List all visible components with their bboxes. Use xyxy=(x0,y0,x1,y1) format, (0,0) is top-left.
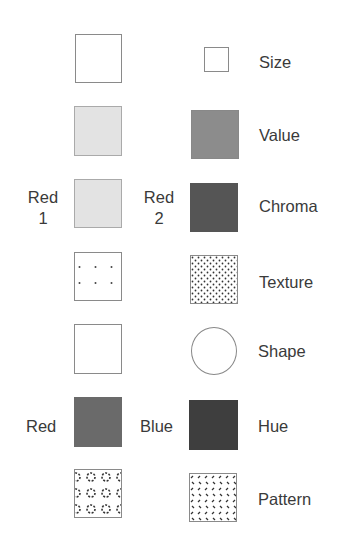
ring-pattern-icon xyxy=(75,470,121,517)
size-label: Size xyxy=(259,53,291,72)
chroma-right-caption-line1: Red xyxy=(137,187,181,208)
hue-blue-square xyxy=(189,400,238,450)
chroma-left-caption-line1: Red xyxy=(22,187,64,208)
chroma-right-caption-line2: 2 xyxy=(137,208,181,229)
shape-circle xyxy=(191,327,237,375)
hue-left-caption: Red xyxy=(26,417,56,436)
size-large-square xyxy=(75,34,122,83)
value-dark-square xyxy=(191,110,239,159)
pattern-circles-square xyxy=(74,469,122,518)
dense-dots-icon xyxy=(191,256,237,303)
hue-right-caption: Blue xyxy=(140,417,173,436)
chroma-left-caption: Red 1 xyxy=(22,187,64,229)
pattern-label: Pattern xyxy=(258,490,311,509)
chroma-left-caption-line2: 1 xyxy=(22,208,64,229)
texture-sparse-square xyxy=(74,252,122,301)
texture-label: Texture xyxy=(259,273,313,292)
texture-dense-square xyxy=(190,255,238,304)
shape-square xyxy=(74,324,122,374)
value-light-square xyxy=(74,106,122,156)
value-label: Value xyxy=(259,126,300,145)
shape-label: Shape xyxy=(258,342,306,361)
hue-label: Hue xyxy=(258,417,288,436)
hue-red-square xyxy=(74,397,122,447)
chroma-label: Chroma xyxy=(259,197,318,216)
size-small-square xyxy=(204,47,229,72)
chroma-red2-square xyxy=(190,183,238,232)
chroma-red1-square xyxy=(74,179,122,228)
sparse-dots-icon xyxy=(75,253,121,300)
pattern-dashes-square xyxy=(189,473,237,522)
dash-pattern-icon xyxy=(190,474,236,521)
chroma-right-caption: Red 2 xyxy=(137,187,181,229)
